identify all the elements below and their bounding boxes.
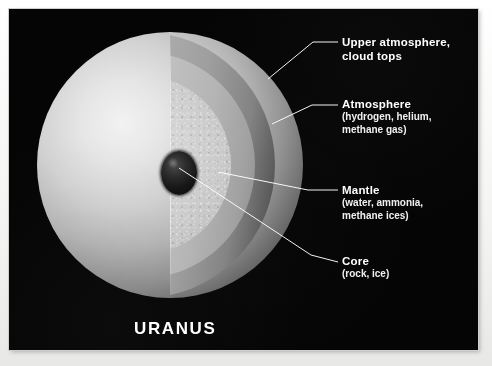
- planet-cutaway: [170, 9, 370, 350]
- label-core-detail-line1: (rock, ice): [342, 268, 389, 281]
- label-atmosphere-detail-line2: methane gas): [342, 124, 431, 137]
- figure-canvas: URANUS Upper atmosphere, cloud tops Atmo…: [0, 0, 492, 366]
- label-atmosphere: Atmosphere (hydrogen, helium, methane ga…: [342, 98, 431, 136]
- planet-name-title: URANUS: [134, 319, 216, 339]
- core-layer: [161, 151, 197, 195]
- label-mantle-detail-line2: methane ices): [342, 210, 423, 223]
- label-core: Core (rock, ice): [342, 255, 389, 281]
- label-mantle-title: Mantle: [342, 184, 423, 197]
- label-atmosphere-title: Atmosphere: [342, 98, 431, 111]
- label-atmosphere-detail-line1: (hydrogen, helium,: [342, 111, 431, 124]
- label-upper-atmosphere-title-line2: cloud tops: [342, 49, 450, 63]
- label-mantle: Mantle (water, ammonia, methane ices): [342, 184, 423, 222]
- label-core-title: Core: [342, 255, 389, 268]
- label-upper-atmosphere-title-line1: Upper atmosphere,: [342, 35, 450, 49]
- label-mantle-detail-line1: (water, ammonia,: [342, 197, 423, 210]
- label-upper-atmosphere: Upper atmosphere, cloud tops: [342, 35, 450, 63]
- core-highlight: [167, 158, 179, 168]
